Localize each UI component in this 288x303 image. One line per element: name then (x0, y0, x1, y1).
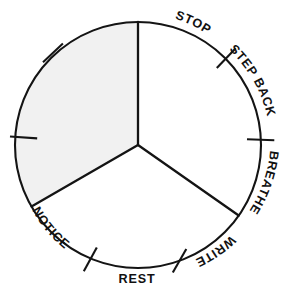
label-rest: REST (118, 272, 155, 286)
diagram-root: STOP STEP BACK BREATHE WRITE NOTICE REST (0, 0, 288, 303)
tick-right (247, 139, 274, 140)
cycle-wheel-diagram: STOP STEP BACK BREATHE WRITE NOTICE REST (0, 0, 288, 303)
